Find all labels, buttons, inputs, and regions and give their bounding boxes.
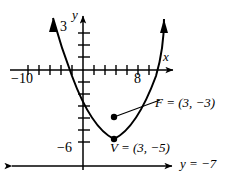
parabola-right-arrowhead: [160, 19, 168, 33]
parabola-curve: [53, 18, 164, 139]
y-tick-label-neg6: −6: [57, 141, 72, 155]
vertex-label: V = (3, −5): [110, 141, 170, 154]
focus-point: [111, 114, 117, 120]
y-axis-ticks: [78, 33, 90, 142]
x-axis-label: x: [163, 50, 169, 63]
parabola-figure: y x 3 −10 8 −6 F = (3, −3) V = (3, −5) y…: [0, 0, 231, 184]
x-tick-label-neg10: −10: [11, 72, 33, 86]
y-tick-label-3: 3: [60, 20, 67, 34]
x-tick-label-8: 8: [134, 72, 141, 86]
focus-label: F = (3, −3): [155, 96, 215, 109]
y-axis-label: y: [72, 8, 78, 21]
directrix-label: y = −7: [180, 157, 216, 170]
